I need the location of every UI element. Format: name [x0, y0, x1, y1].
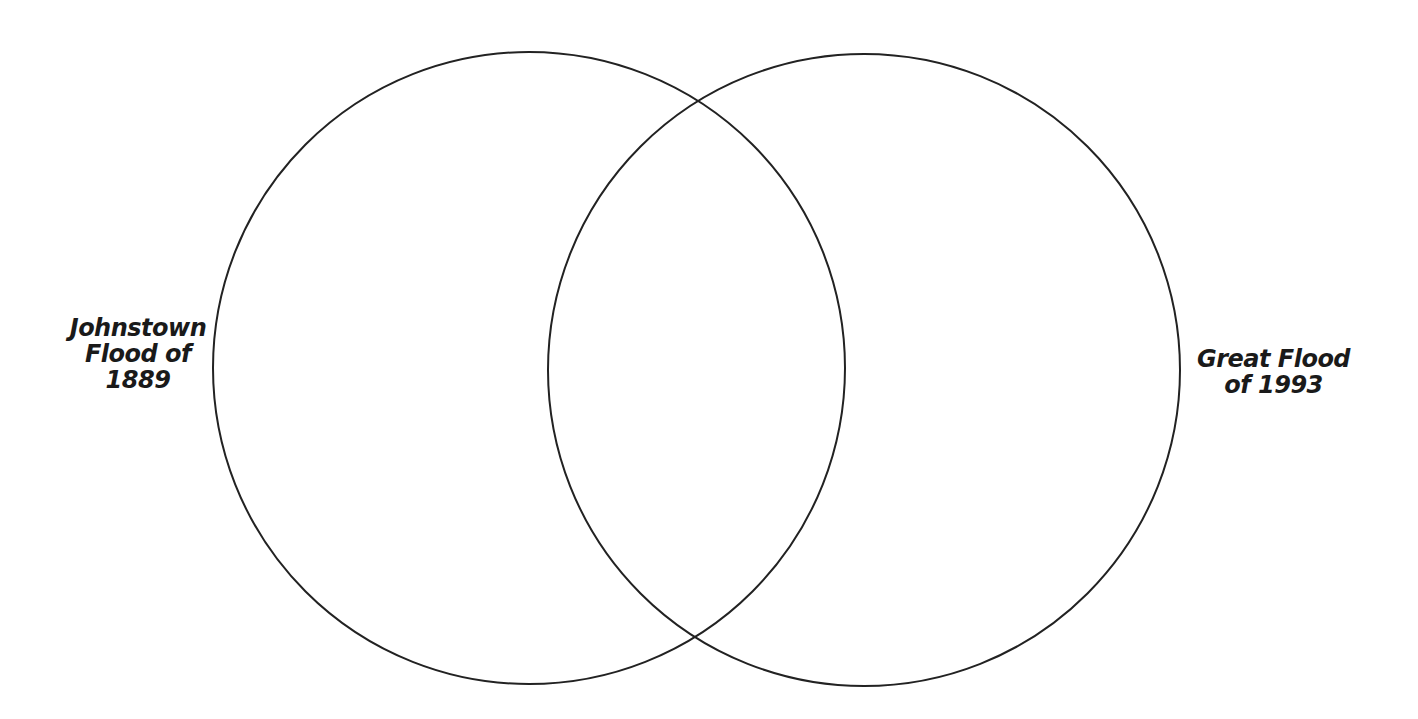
left-label-line-2: Flood of — [58, 341, 218, 367]
left-circle — [213, 52, 845, 684]
right-label-line-1: Great Flood — [1186, 346, 1361, 372]
left-label-line-1: Johnstown — [58, 315, 218, 341]
right-set-label: Great Flood of 1993 — [1186, 346, 1361, 398]
left-set-label: Johnstown Flood of 1889 — [58, 315, 218, 393]
right-circle — [548, 54, 1180, 686]
right-label-line-2: of 1993 — [1186, 372, 1361, 398]
left-label-line-3: 1889 — [58, 367, 218, 393]
